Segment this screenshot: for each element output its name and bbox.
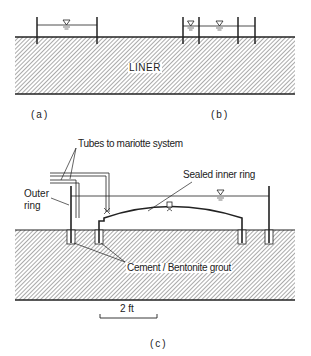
tubes-icon <box>50 173 109 218</box>
outer-ring-label-line1: Outer <box>24 189 49 199</box>
scale-bar <box>100 314 157 318</box>
panel-a-caption: (a) <box>31 109 49 120</box>
liner-label: LINER <box>128 63 162 73</box>
diagram-canvas <box>0 0 311 356</box>
water-level-icon-inner <box>216 21 223 30</box>
scale-bar-label: 2 ft <box>120 304 134 314</box>
outer-ring-label-line2: ring <box>24 201 41 211</box>
tubes-label: Tubes to mariotte system <box>78 139 183 149</box>
panel-c-caption: (c) <box>150 338 168 349</box>
sealed-inner-ring-label: Sealed inner ring <box>183 170 255 180</box>
panel-b-caption: (b) <box>211 109 229 120</box>
water-level-icon <box>63 20 70 29</box>
grout-label: Cement / Bentonite grout <box>126 263 232 273</box>
valve-icon <box>167 202 172 211</box>
water-level-icon-outer <box>188 21 195 30</box>
water-level-icon-c <box>217 190 224 200</box>
